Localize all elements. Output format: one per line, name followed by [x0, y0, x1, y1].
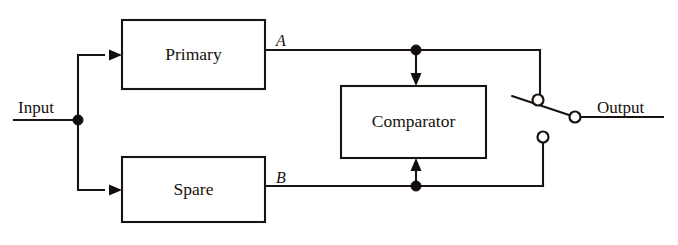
arrowhead-primary-input: [109, 50, 122, 61]
junction-spare-output: [411, 181, 421, 191]
block-comparator[interactable]: Comparator: [341, 86, 486, 158]
junction-primary-output: [411, 45, 421, 55]
block-spare-label: Spare: [174, 179, 214, 199]
transfer-switch[interactable]: [512, 95, 581, 143]
wire-input-to-primary-branch: [78, 55, 104, 120]
wire-group: [14, 50, 663, 190]
switch-spare-contact[interactable]: [538, 132, 549, 143]
block-primary[interactable]: Primary: [122, 20, 265, 89]
block-primary-label: Primary: [165, 44, 222, 64]
arrowhead-comparator-top: [411, 73, 422, 86]
block-spare[interactable]: Spare: [122, 157, 265, 222]
port-label-b: B: [276, 169, 286, 186]
junction-input: [73, 115, 83, 125]
standby-redundancy-diagram: Primary Comparator Spare A B: [0, 0, 678, 245]
output-label: Output: [597, 98, 645, 117]
input-label: Input: [18, 98, 54, 117]
arrowhead-comparator-bottom: [411, 158, 422, 171]
switch-output-contact[interactable]: [570, 112, 581, 123]
diagram-canvas: Primary Comparator Spare A B: [0, 0, 678, 245]
port-label-a: A: [275, 32, 286, 49]
block-comparator-label: Comparator: [372, 111, 456, 131]
port-label-group: A B: [275, 32, 286, 186]
switch-pivot-terminal[interactable]: [533, 95, 544, 106]
arrowhead-spare-input: [109, 185, 122, 196]
io-label-group: Input Output: [18, 98, 645, 117]
wire-input-to-spare-branch: [78, 120, 104, 190]
